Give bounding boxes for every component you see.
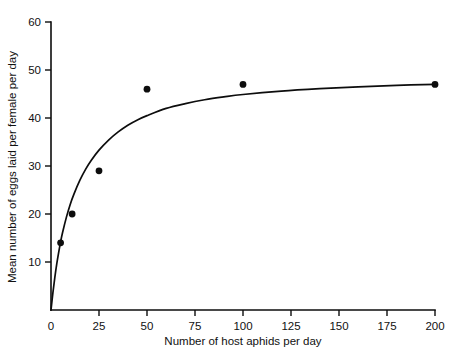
- data-point: [144, 86, 151, 93]
- x-axis: 0255075100125150175200: [48, 310, 445, 332]
- x-tick-label-100: 100: [233, 320, 252, 332]
- x-axis-ticks: [99, 310, 435, 316]
- y-axis: 102030405060: [28, 16, 51, 310]
- x-tick-label-200: 200: [425, 320, 444, 332]
- data-point: [240, 81, 247, 88]
- x-axis-title: Number of host aphids per day: [164, 335, 322, 347]
- x-tick-label-150: 150: [329, 320, 348, 332]
- data-point: [69, 211, 76, 218]
- x-tick-label-0: 0: [48, 320, 54, 332]
- data-point: [57, 239, 64, 246]
- y-tick-label-50: 50: [28, 64, 41, 76]
- chart-figure: 102030405060 0255075100125150175200 Numb…: [0, 0, 459, 355]
- x-tick-label-125: 125: [281, 320, 300, 332]
- y-tick-label-30: 30: [28, 160, 41, 172]
- x-tick-label-50: 50: [141, 320, 154, 332]
- y-axis-tick-labels: 102030405060: [28, 16, 41, 268]
- x-tick-label-25: 25: [93, 320, 106, 332]
- x-axis-tick-labels: 0255075100125150175200: [48, 320, 445, 332]
- functional-response-chart: 102030405060 0255075100125150175200 Numb…: [0, 0, 459, 355]
- x-tick-label-75: 75: [189, 320, 202, 332]
- y-tick-label-20: 20: [28, 208, 41, 220]
- y-tick-label-10: 10: [28, 256, 41, 268]
- y-axis-ticks: [45, 22, 51, 262]
- data-point: [432, 81, 439, 88]
- y-tick-label-40: 40: [28, 112, 41, 124]
- y-axis-title: Mean number of eggs laid per female per …: [6, 51, 18, 283]
- fitted-curve-line: [51, 84, 435, 310]
- data-point-group: [57, 81, 438, 246]
- y-tick-label-60: 60: [28, 16, 41, 28]
- x-tick-label-175: 175: [377, 320, 396, 332]
- data-point: [96, 167, 103, 174]
